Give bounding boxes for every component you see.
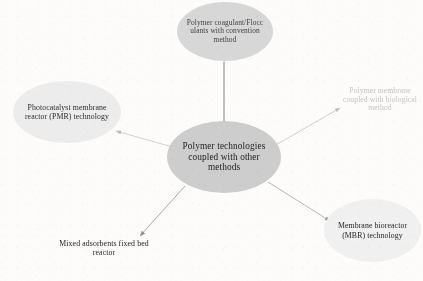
node-label: Membrane bioreactor (MBR) technology <box>324 221 421 239</box>
node-photocatalyst-membrane-reactor[interactable]: Photocatalyst membrane reactor (PMR) tec… <box>13 81 121 143</box>
node-mixed-adsorbents-fixed-bed[interactable]: Mixed adsorbents fixed bed reactor <box>46 225 162 271</box>
node-label: Mixed adsorbents fixed bed reactor <box>46 239 162 257</box>
node-label: Polymer membrane coupled with biological… <box>338 87 422 114</box>
node-membrane-bioreactor[interactable]: Membrane bioreactor (MBR) technology <box>324 199 421 262</box>
node-label: Photocatalyst membrane reactor (PMR) tec… <box>13 103 121 121</box>
diagram-canvas: Polymer coagulant/Flocc ulants with conv… <box>0 0 423 281</box>
node-center-polymer-technologies[interactable]: Polymer technologies coupled with other … <box>167 121 281 193</box>
node-label: Polymer coagulant/Flocc ulants with conv… <box>177 19 273 45</box>
connector-center-to-bio <box>274 108 340 146</box>
node-polymer-membrane-biological[interactable]: Polymer membrane coupled with biological… <box>338 68 422 132</box>
node-polymer-coagulant[interactable]: Polymer coagulant/Flocc ulants with conv… <box>177 2 273 61</box>
node-label: Polymer technologies coupled with other … <box>167 141 281 174</box>
connector-center-to-mbr <box>268 182 330 221</box>
